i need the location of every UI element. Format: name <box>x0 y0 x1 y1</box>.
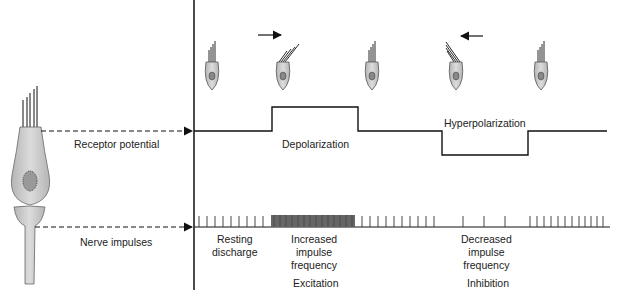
impulse-ticks <box>199 216 603 227</box>
inhibition-label: Inhibition <box>467 277 509 290</box>
receptor-potential-label: Receptor potential <box>74 138 159 151</box>
hair-cell-deflected-left <box>446 42 463 90</box>
receptor-potential-trace <box>194 107 607 155</box>
depolarization-label: Depolarization <box>282 138 349 151</box>
hair-cell-large <box>11 86 49 205</box>
nerve-terminal <box>14 206 45 284</box>
hair-cell-rest-2 <box>365 41 379 90</box>
decreased-frequency-label: Decreased impulse frequency <box>461 233 512 272</box>
excitation-label: Excitation <box>293 277 339 290</box>
burst-impulses <box>271 215 355 227</box>
nerve-impulses-label: Nerve impulses <box>80 236 152 249</box>
hyperpolarization-label: Hyperpolarization <box>444 117 526 130</box>
resting-discharge-label: Resting discharge <box>212 233 258 259</box>
increased-frequency-label: Increased impulse frequency <box>291 233 337 272</box>
hair-cell-rest-1 <box>205 41 219 90</box>
hair-cell-deflected-right <box>276 44 299 90</box>
hair-cell-rest-3 <box>534 41 548 90</box>
